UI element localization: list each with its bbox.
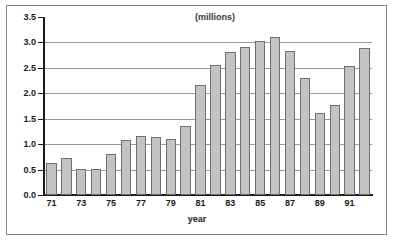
- bar: [285, 51, 295, 195]
- x-axis-tick-label: 87: [279, 198, 301, 208]
- x-axis-tick-label: 85: [249, 198, 271, 208]
- y-axis-tick: [38, 42, 44, 43]
- bar: [91, 169, 101, 195]
- y-axis-tick-label: 3.0: [10, 38, 36, 47]
- bar: [76, 169, 86, 195]
- bar: [210, 65, 220, 195]
- bar: [315, 113, 325, 195]
- y-axis-tick-label: 2.0: [10, 89, 36, 98]
- bar: [300, 78, 310, 195]
- x-axis-tick-label: 75: [100, 198, 122, 208]
- y-axis-tick: [38, 93, 44, 94]
- y-axis-tick-label: 2.5: [10, 64, 36, 73]
- x-axis-tick-label: 81: [190, 198, 212, 208]
- y-axis-tick: [38, 170, 44, 171]
- y-axis-tick: [38, 68, 44, 69]
- x-axis-tick-label: 71: [40, 198, 62, 208]
- bar: [330, 105, 340, 195]
- y-axis-tick: [38, 195, 44, 196]
- bar: [61, 158, 71, 195]
- x-axis-tick-label: 83: [219, 198, 241, 208]
- bar: [255, 41, 265, 195]
- y-axis-tick: [38, 119, 44, 120]
- bar: [106, 154, 116, 195]
- y-axis-tick: [38, 144, 44, 145]
- y-axis-tick-label: 1.0: [10, 140, 36, 149]
- bar-series: [44, 17, 372, 195]
- x-axis-tick-labels: 7173757779818385878991: [0, 198, 394, 212]
- bar: [344, 66, 354, 195]
- x-axis-title: year: [0, 214, 394, 224]
- bar: [136, 136, 146, 196]
- x-axis-tick-label: 79: [160, 198, 182, 208]
- y-axis-tick: [38, 17, 44, 18]
- x-axis-tick-label: 91: [339, 198, 361, 208]
- bar: [121, 140, 131, 195]
- bar: [240, 47, 250, 196]
- x-axis-tick-label: 73: [70, 198, 92, 208]
- bar: [166, 139, 176, 195]
- bar: [151, 137, 161, 195]
- bar: [46, 163, 56, 195]
- y-axis-tick-label: 3.5: [10, 13, 36, 22]
- bar: [195, 85, 205, 195]
- bar-chart-figure: (millions) 0.00.51.01.52.02.53.03.5 7173…: [0, 0, 394, 242]
- bar: [225, 52, 235, 195]
- bar: [180, 126, 190, 195]
- y-axis-tick-label: 0.5: [10, 166, 36, 175]
- bar: [359, 48, 369, 195]
- bar: [270, 37, 280, 195]
- y-axis-tick-label: 1.5: [10, 115, 36, 124]
- x-axis-tick-label: 89: [309, 198, 331, 208]
- x-axis-tick-label: 77: [130, 198, 152, 208]
